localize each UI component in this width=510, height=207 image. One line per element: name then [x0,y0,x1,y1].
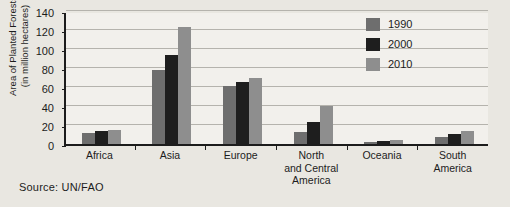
bar [294,132,307,144]
bar [377,141,390,144]
bar [108,130,121,144]
gridline [66,10,488,11]
chart-legend: 199020002010 [366,14,462,74]
bar [152,70,165,144]
x-axis-category-label: Europe [205,149,276,162]
bar-group [278,13,349,144]
bar-group [66,13,137,144]
legend-label: 2010 [388,58,412,70]
source-note: Source: UN/FAO [19,181,104,193]
x-axis-category-label: Northand CentralAmerica [276,149,347,187]
planted-forests-bar-chart: Area of Planted Forests (in million hect… [0,0,510,207]
legend-item: 1990 [366,14,462,34]
x-axis-tick-mark [135,146,136,150]
x-axis-category-labels: AfricaAsiaEuropeNorthand CentralAmericaO… [64,149,488,195]
bar [236,82,249,144]
y-axis-tick-label: 120 [36,26,54,38]
x-axis-category-label-line: Oceania [347,149,418,162]
x-axis-category-label: Asia [135,149,206,162]
x-axis-tick-mark [417,146,418,150]
y-axis-tick-label: 20 [42,121,54,133]
legend-label: 1990 [388,18,412,30]
x-axis-category-label-line: and Central [276,162,347,175]
bar [307,122,320,144]
x-axis-category-label-line: Asia [135,149,206,162]
x-axis-tick-mark [276,146,277,150]
bar [165,55,178,144]
y-axis-tick-label: 0 [48,140,54,152]
y-axis-tick-label: 140 [36,7,54,19]
x-axis-category-label-line: Europe [205,149,276,162]
bar-group [137,13,208,144]
x-axis-category-label-line: America [417,162,488,175]
bar [249,78,262,145]
x-axis-category-label-line: North [276,149,347,162]
bar [448,134,461,144]
x-axis-category-label-line: South [417,149,488,162]
bar [178,27,191,144]
legend-label: 2000 [388,38,412,50]
y-axis-tick-labels: 020406080100120140 [0,13,60,146]
x-axis-category-label-line: America [276,174,347,187]
y-axis-tick-label: 80 [42,64,54,76]
x-axis-tick-mark [347,146,348,150]
bar [320,106,333,144]
bar [82,133,95,144]
y-axis-tick-label: 60 [42,83,54,95]
legend-item: 2010 [366,54,462,74]
bar [95,131,108,144]
bar-group [207,13,278,144]
legend-item: 2000 [366,34,462,54]
y-axis-tick-mark [62,146,66,147]
x-axis-tick-mark [205,146,206,150]
legend-swatch [366,58,380,71]
bar [390,140,403,144]
y-axis-tick-label: 40 [42,102,54,114]
legend-swatch [366,18,380,31]
bar [435,137,448,144]
legend-swatch [366,38,380,51]
x-axis-category-label: Africa [64,149,135,162]
y-axis-tick-label: 100 [36,45,54,57]
bar [364,142,377,144]
bar [223,86,236,144]
x-axis-category-label-line: Africa [64,149,135,162]
x-axis-category-label: Oceania [347,149,418,162]
x-axis-category-label: SouthAmerica [417,149,488,174]
bar [461,131,474,144]
